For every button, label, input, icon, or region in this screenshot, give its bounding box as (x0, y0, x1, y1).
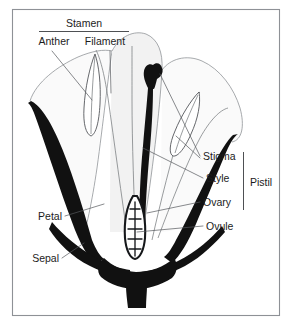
label-petal: Petal (38, 210, 62, 222)
label-stamen: Stamen (66, 17, 102, 29)
label-anther: Anther (39, 35, 70, 47)
label-ovary: Ovary (203, 196, 232, 208)
label-sepal: Sepal (32, 252, 59, 264)
flower-anatomy-figure: Stamen Anther Filament Stigma Style Ovar… (0, 0, 296, 332)
ovary-group (125, 196, 145, 259)
label-pistil: Pistil (250, 176, 272, 188)
label-filament: Filament (85, 35, 125, 47)
flower-stem (126, 286, 147, 308)
label-stigma: Stigma (203, 150, 236, 162)
label-style: Style (206, 172, 230, 184)
label-ovule: Ovule (206, 220, 234, 232)
diagram-canvas: Stamen Anther Filament Stigma Style Ovar… (0, 0, 296, 332)
